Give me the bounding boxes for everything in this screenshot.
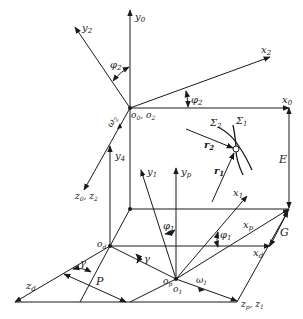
label-sigma2: Σ2 (209, 117, 222, 130)
label-z0z2: z0, z2 (74, 191, 98, 202)
label-phi1-right: φ1 (220, 229, 231, 242)
label-omega2: ω2 (105, 114, 120, 129)
label-zd: zd (25, 280, 36, 293)
label-G: G (280, 226, 289, 239)
P-dimension-line (64, 274, 126, 302)
label-phi2-top: φ2 (110, 59, 122, 72)
contact-point (233, 146, 239, 152)
label-P: P (95, 275, 104, 288)
label-x0: x0 (282, 94, 293, 107)
label-sigma1: Σ1 (235, 115, 248, 128)
label-o0o2: o0, o2 (131, 110, 155, 121)
label-yp: yp (180, 166, 192, 179)
x1-axis (176, 196, 247, 279)
label-phi2-right: φ2 (191, 94, 203, 107)
label-o1: o1 (173, 284, 182, 295)
od-to-o1-line (110, 246, 176, 279)
xp-axis (176, 209, 289, 279)
label-xd: xd (253, 247, 264, 260)
label-x1: x1 (233, 187, 243, 200)
label-y1: y1 (146, 166, 157, 179)
label-y4: y4 (114, 150, 125, 163)
contact-surfaces (186, 125, 252, 202)
label-r2: r2 (204, 139, 214, 152)
gamma-right-arc (136, 254, 138, 263)
label-E: E (278, 153, 287, 166)
rect-corner-point (128, 207, 132, 211)
label-y2: y2 (81, 22, 93, 35)
label-phi1-left: φ1 (163, 220, 174, 233)
zd-axis (15, 246, 110, 302)
label-omega1: ω1 (196, 275, 207, 286)
label-r1: r1 (214, 165, 224, 178)
phi2-right-arc (186, 91, 188, 107)
phi1-right-arc (217, 232, 218, 247)
label-y0: y0 (134, 11, 146, 24)
label-zpz1: zp, z1 (240, 299, 264, 311)
gamma-left-arc (73, 268, 91, 272)
middle-frame (108, 146, 289, 248)
gear-coordinate-diagram: y0 y2 x2 x0 φ2 φ2 o0, o2 ω2 y4 z0, z2 Σ2… (0, 0, 303, 319)
label-od: od (97, 239, 106, 250)
y2-axis (75, 27, 130, 108)
label-op: op (163, 276, 172, 288)
label-x2: x2 (261, 44, 272, 57)
rect-left-edge (110, 209, 130, 246)
label-gamma-left: γ (80, 257, 86, 268)
label-gamma-right: γ (144, 253, 150, 264)
upper-coordinate-system (75, 10, 289, 209)
label-xp: xp (243, 219, 254, 232)
